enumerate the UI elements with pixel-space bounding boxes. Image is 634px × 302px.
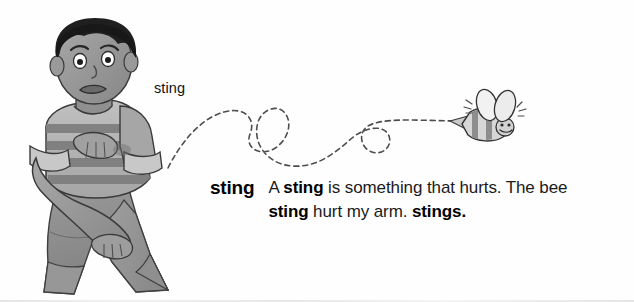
entry-row: sting A sting is something that hurts. T… bbox=[210, 176, 610, 224]
boy-figure bbox=[30, 18, 168, 294]
definition-text: A bbox=[268, 178, 283, 197]
entry-headword: sting bbox=[210, 176, 268, 200]
definition-keyword: sting bbox=[283, 178, 323, 197]
boy-head bbox=[50, 18, 138, 104]
definition-plural-form: stings. bbox=[412, 202, 466, 221]
definition-keyword: sting bbox=[268, 202, 308, 221]
flight-path-word-label: sting bbox=[154, 80, 185, 96]
sting-illustration bbox=[0, 0, 634, 302]
dictionary-entry-page: sting sting A sting is something that hu… bbox=[0, 0, 634, 302]
definition-text: is something that hurts. The bee bbox=[323, 178, 567, 197]
bee bbox=[450, 87, 526, 150]
bee-flight-path bbox=[168, 108, 452, 168]
definition-text: hurt my arm. bbox=[309, 202, 412, 221]
entry-definition: A sting is something that hurts. The bee… bbox=[268, 176, 610, 224]
boy-right-arm bbox=[120, 106, 162, 174]
definition-entry: sting A sting is something that hurts. T… bbox=[210, 176, 610, 224]
